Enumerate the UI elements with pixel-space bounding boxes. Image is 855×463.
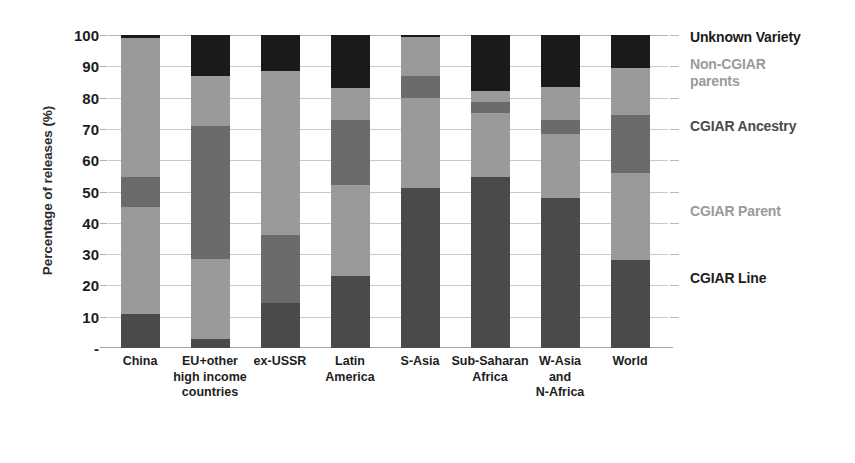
bar-world[interactable] [611,35,650,348]
bar-segment-cgiar-ancestry [261,235,300,302]
y-tick-stub-right-50 [670,192,679,193]
y-tick-stub-right-80 [670,98,679,99]
bar-segment-cgiar-line [121,314,160,348]
bar-segment-cgiar-parent [471,113,510,177]
bar-segment-non-cgiar-parents [611,68,650,115]
y-tick-stub-right-20 [670,285,679,286]
y-tick-label-90: 90 [82,58,99,75]
bar-segment-cgiar-ancestry [191,126,230,259]
y-tick-stub-right-10 [670,317,679,318]
y-tick-label-20: 20 [82,277,99,294]
y-tick-mark-40 [100,223,107,224]
plot-area: 102030405060708090100- [108,35,668,348]
bar-latin-america[interactable] [331,35,370,348]
y-tick-mark-70 [100,129,107,130]
bar-segment-unknown-variety [471,35,510,91]
bar-segment-unknown-variety [261,35,300,71]
bar-segment-unknown-variety [331,35,370,88]
bar-segment-cgiar-line [471,177,510,348]
y-tick-label-40: 40 [82,214,99,231]
bar-segment-cgiar-line [331,276,370,348]
bar-segment-cgiar-parent [611,173,650,261]
bar-china[interactable] [121,35,160,348]
bar-w-asia-and-n-africa[interactable] [541,35,580,348]
y-tick-label-30: 30 [82,246,99,263]
legend-item-cgiar-parent[interactable]: CGIAR Parent [690,203,781,220]
bar-segment-cgiar-parent [541,134,580,198]
y-tick-stub-right-90 [670,66,679,67]
bar-segment-unknown-variety [121,35,160,38]
x-axis-label-line: Latin [335,354,365,368]
y-tick-mark-50 [100,192,107,193]
bar-eu-other-high-income-countries[interactable] [191,35,230,348]
y-tick-label-70: 70 [82,120,99,137]
bar-segment-cgiar-line [611,260,650,348]
y-tick-mark-80 [100,98,107,99]
bar-sub-saharan-africa[interactable] [471,35,510,348]
bar-segment-cgiar-ancestry [611,115,650,173]
bar-segment-non-cgiar-parents [541,87,580,120]
y-tick-mark-100 [100,35,107,36]
x-axis-baseline [100,347,673,348]
y-tick-stub-right-40 [670,223,679,224]
bar-segment-cgiar-ancestry [471,102,510,113]
y-tick-label-10: 10 [82,308,99,325]
legend-item-cgiar-ancestry[interactable]: CGIAR Ancestry [690,118,796,135]
bar-segment-unknown-variety [611,35,650,68]
bar-segment-non-cgiar-parents [191,76,230,126]
bar-segment-cgiar-parent [401,98,440,189]
bar-segment-non-cgiar-parents [471,91,510,102]
y-axis-title: Percentage of releases (%) [40,61,55,321]
x-axis-label-world: World [572,354,688,370]
y-tick-stub-right-70 [670,129,679,130]
y-tick-label-100: 100 [74,27,99,44]
y-tick-mark-20 [100,285,107,286]
y-tick-mark-10 [100,317,107,318]
bar-segment-non-cgiar-parents [401,37,440,76]
bar-segment-cgiar-ancestry [331,120,370,186]
y-tick-label-50: 50 [82,183,99,200]
y-tick-stub-right-100 [670,35,679,36]
y-tick-label-80: 80 [82,89,99,106]
bar-segment-cgiar-line [541,198,580,348]
bar-segment-unknown-variety [401,35,440,37]
x-axis-label-line: countries [182,385,238,399]
bar-segment-cgiar-line [191,339,230,348]
x-axis-label-line: high income [173,370,247,384]
bar-ex-ussr[interactable] [261,35,300,348]
y-tick-mark-60 [100,160,107,161]
bar-segment-cgiar-line [261,303,300,348]
bar-segment-cgiar-parent [121,207,160,313]
x-axis-label-line: and [549,370,571,384]
bar-segment-cgiar-parent [191,259,230,339]
x-axis-label-line: America [325,370,374,384]
stacked-bar-chart: Percentage of releases (%) 1020304050607… [0,0,855,463]
bar-segment-non-cgiar-parents [121,38,160,177]
bar-s-asia[interactable] [401,35,440,348]
x-axis-label-line: World [612,354,647,368]
y-tick-stub-right-60 [670,160,679,161]
bar-segment-cgiar-ancestry [401,76,440,98]
legend-item-non-cgiar-parents[interactable]: Non-CGIAR parents [690,56,766,90]
bar-segment-cgiar-ancestry [541,120,580,134]
bar-segment-cgiar-line [401,188,440,348]
bar-segment-non-cgiar-parents [261,71,300,235]
legend-item-unknown-variety[interactable]: Unknown Variety [690,29,801,46]
x-axis-label-line: N-Africa [536,385,585,399]
bar-segment-cgiar-parent [331,185,370,276]
bar-segment-non-cgiar-parents [331,88,370,119]
y-tick-mark-90 [100,66,107,67]
y-tick-mark-30 [100,254,107,255]
bar-segment-unknown-variety [191,35,230,76]
y-tick-label-60: 60 [82,152,99,169]
legend-item-cgiar-line[interactable]: CGIAR Line [690,270,766,287]
y-tick-stub-right-30 [670,254,679,255]
bar-segment-cgiar-ancestry [121,177,160,207]
bar-segment-unknown-variety [541,35,580,87]
